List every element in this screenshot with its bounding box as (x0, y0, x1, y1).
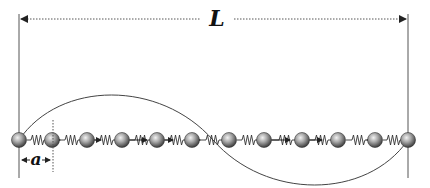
length-dimension: L (21, 5, 406, 31)
chain-diagram: L (0, 0, 430, 188)
spring (383, 135, 403, 145)
mass-ball (12, 133, 27, 148)
mass-ball (80, 133, 95, 148)
mass-ball (222, 133, 237, 148)
spacing-dimension: a (22, 149, 50, 169)
mass-ball (257, 133, 272, 148)
mass-ball (185, 133, 200, 148)
mass-ball (115, 133, 130, 148)
mass-ball (295, 133, 310, 148)
mass-ball (368, 133, 383, 148)
length-label: L (208, 5, 224, 31)
spacing-label: a (30, 149, 41, 169)
mass-ball (150, 133, 165, 148)
mass-ball (331, 133, 346, 148)
mass-ball (401, 133, 416, 148)
mass-ball (45, 133, 60, 148)
